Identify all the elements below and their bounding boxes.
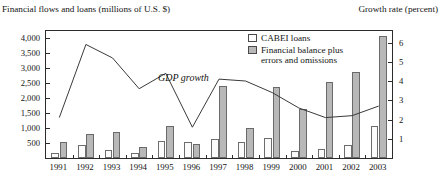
year-label-1991: 1991	[50, 162, 68, 173]
left-tickmark	[46, 53, 50, 54]
left-tickmark	[46, 113, 50, 114]
bar-cabei-1995	[158, 141, 166, 158]
bar-cabei-1991	[51, 153, 59, 158]
bar-cabei-1992	[78, 145, 86, 158]
year-label-1999: 1999	[262, 162, 280, 173]
bar-cabei-1997	[211, 139, 219, 158]
right-tickmark	[388, 100, 392, 101]
right-tick-label: 5	[399, 57, 403, 66]
bar-cabei-1993	[105, 150, 113, 158]
right-tickmark	[388, 81, 392, 82]
left-tickmark	[46, 83, 50, 84]
bar-balance-2003	[379, 36, 387, 158]
x-tickmark	[73, 155, 74, 158]
left-tickmark	[46, 143, 50, 144]
x-tickmark	[99, 155, 100, 158]
left-tick-label: 3,000	[21, 64, 40, 73]
bar-balance-1999	[273, 87, 281, 158]
bar-balance-1998	[246, 128, 254, 158]
year-label-2002: 2002	[342, 162, 360, 173]
left-tickmark	[46, 98, 50, 99]
left-tick-label: 3,500	[21, 49, 40, 58]
left-tickmark	[46, 68, 50, 69]
legend-swatch-financial-balance	[248, 46, 257, 54]
legend-label-financial-balance-line1: Financial balance plus	[261, 45, 343, 55]
legend-label-financial-balance: Financial balance plus errors and omissi…	[261, 45, 379, 66]
year-label-2003: 2003	[369, 162, 387, 173]
bar-balance-2001	[326, 82, 334, 158]
bar-cabei-1996	[184, 142, 192, 158]
left-tick-label: 1,500	[21, 109, 40, 118]
left-tick-label: 1,000	[21, 124, 40, 133]
legend-label-financial-balance-line2: errors and omissions	[261, 55, 337, 65]
left-tick-label: 2,000	[21, 94, 40, 103]
bar-balance-1991	[60, 142, 68, 158]
bar-cabei-1994	[131, 153, 139, 158]
right-tick-label: 6	[399, 38, 403, 47]
bar-balance-2000	[299, 109, 307, 158]
x-tickmark	[152, 155, 153, 158]
bar-cabei-1999	[264, 138, 272, 158]
bar-balance-1992	[86, 134, 94, 159]
x-tickmark	[179, 155, 180, 158]
x-tickmark	[286, 155, 287, 158]
legend-item-financial-balance: Financial balance plus errors and omissi…	[248, 45, 379, 66]
x-tickmark	[206, 155, 207, 158]
right-tickmark	[388, 62, 392, 63]
bar-cabei-1998	[238, 142, 246, 158]
x-tickmark	[259, 155, 260, 158]
left-tick-label: 500	[27, 139, 40, 148]
right-tickmark	[388, 120, 392, 121]
right-tick-label: 1	[399, 134, 403, 143]
right-tickmark	[388, 43, 392, 44]
chart-figure: Financial flows and loans (millions of U…	[0, 0, 441, 182]
bar-cabei-2000	[291, 151, 299, 158]
right-tickmark	[388, 139, 392, 140]
bar-balance-1996	[193, 144, 201, 158]
x-tickmark	[126, 155, 127, 158]
x-tickmark	[312, 155, 313, 158]
left-axis-tick-labels: 5001,0001,5002,0002,5003,0003,5004,000	[0, 0, 40, 182]
year-label-2000: 2000	[289, 162, 307, 173]
bar-balance-1997	[219, 86, 227, 158]
bar-cabei-2003	[371, 126, 379, 158]
bar-balance-1993	[113, 132, 121, 158]
bar-cabei-2001	[318, 149, 326, 158]
bar-cabei-2002	[344, 145, 352, 158]
year-label-1992: 1992	[76, 162, 94, 173]
year-label-2001: 2001	[316, 162, 334, 173]
bar-balance-2002	[352, 72, 360, 158]
left-tickmark	[46, 38, 50, 39]
x-axis-year-labels: 1991199219931994199519961997199819992000…	[45, 162, 393, 178]
year-label-1993: 1993	[103, 162, 121, 173]
right-tick-label: 3	[399, 96, 403, 105]
chart-legend: CABEI loans Financial balance plus error…	[248, 33, 379, 67]
legend-item-cabei-loans: CABEI loans	[248, 33, 379, 44]
left-tick-label: 2,500	[21, 79, 40, 88]
right-tick-label: 4	[399, 77, 403, 86]
x-tickmark	[365, 155, 366, 158]
year-label-1994: 1994	[129, 162, 147, 173]
x-tickmark	[339, 155, 340, 158]
right-tick-label: 2	[399, 115, 403, 124]
left-tick-label: 4,000	[21, 34, 40, 43]
bar-balance-1995	[166, 126, 174, 158]
right-axis-tick-labels: 123456	[399, 0, 429, 182]
year-label-1998: 1998	[236, 162, 254, 173]
bar-balance-1994	[139, 147, 147, 158]
gdp-growth-annotation: GDP growth	[158, 72, 209, 83]
legend-swatch-cabei-loans	[248, 34, 257, 42]
year-label-1996: 1996	[183, 162, 201, 173]
x-tickmark	[232, 155, 233, 158]
year-label-1997: 1997	[209, 162, 227, 173]
year-label-1995: 1995	[156, 162, 174, 173]
left-tickmark	[46, 128, 50, 129]
legend-label-cabei-loans: CABEI loans	[261, 33, 310, 44]
